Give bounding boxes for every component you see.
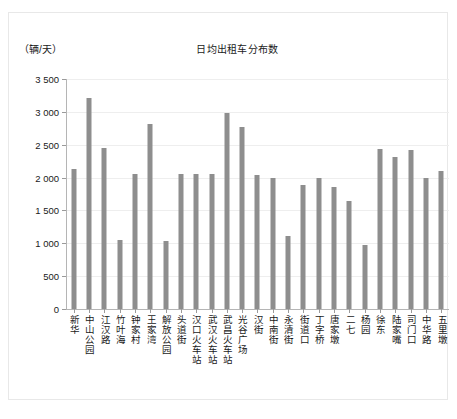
bar[interactable] — [240, 127, 245, 309]
x-axis-label-slot: 二七 — [342, 315, 357, 339]
bar[interactable] — [439, 171, 444, 309]
x-axis-label: 中山公园 — [84, 315, 95, 355]
x-tick-mark — [196, 309, 197, 313]
y-axis-unit-label: （辆/天） — [19, 41, 62, 56]
x-tick-mark — [380, 309, 381, 313]
x-axis-label: 街道口 — [298, 315, 309, 345]
x-axis-label: 五里墩 — [436, 315, 447, 345]
bar-slot — [204, 79, 219, 309]
y-tick-label: 3 000 — [35, 106, 59, 117]
x-axis-label: 武汉火车站 — [206, 315, 217, 365]
y-tick-label: 1 500 — [35, 205, 59, 216]
bar-slot — [357, 79, 372, 309]
x-axis-label-slot: 钟家村 — [127, 315, 142, 349]
bar[interactable] — [163, 241, 168, 309]
bar[interactable] — [393, 157, 398, 309]
x-axis-label-slot: 头道街 — [173, 315, 188, 349]
x-tick-mark — [135, 309, 136, 313]
bar-slot — [311, 79, 326, 309]
x-axis-label-slot: 陆家嘴 — [388, 315, 403, 349]
x-axis-label: 徐东 — [375, 315, 386, 335]
x-tick-mark — [166, 309, 167, 313]
bar[interactable] — [286, 236, 291, 309]
x-axis-label: 丁字桥 — [314, 315, 325, 345]
bar[interactable] — [117, 240, 122, 309]
x-axis-label-slot: 徐东 — [372, 315, 387, 339]
y-tick-label: 2 000 — [35, 172, 59, 183]
bar[interactable] — [148, 124, 153, 309]
y-tick-label: 1 000 — [35, 238, 59, 249]
bar[interactable] — [194, 174, 199, 309]
x-tick-mark — [74, 309, 75, 313]
bar[interactable] — [378, 149, 383, 309]
x-tick-mark — [89, 309, 90, 313]
x-axis-label-slot: 汉街 — [250, 315, 265, 339]
bar[interactable] — [71, 169, 76, 309]
x-tick-mark — [319, 309, 320, 313]
bar-slot — [66, 79, 81, 309]
x-tick-mark — [395, 309, 396, 313]
bar[interactable] — [424, 178, 429, 309]
x-axis-label-slot: 解放公园 — [158, 315, 173, 359]
bar-slot — [189, 79, 204, 309]
bar-slot — [342, 79, 357, 309]
x-axis-label: 钟家村 — [130, 315, 141, 345]
x-axis-label: 唐家墩 — [329, 315, 340, 345]
bar-slot — [296, 79, 311, 309]
bar-slot — [403, 79, 418, 309]
x-axis-label: 中华路 — [421, 315, 432, 345]
bar-slot — [418, 79, 433, 309]
x-tick-mark — [303, 309, 304, 313]
bar[interactable] — [86, 98, 91, 309]
x-axis-label-slot: 中山公园 — [81, 315, 96, 359]
x-axis-label-slot: 武汉火车站 — [204, 315, 219, 369]
x-tick-mark — [349, 309, 350, 313]
bar-slot — [326, 79, 341, 309]
x-tick-mark — [365, 309, 366, 313]
bar-slot — [97, 79, 112, 309]
x-axis-label-slot: 丁字桥 — [311, 315, 326, 349]
bar-slot — [143, 79, 158, 309]
bar[interactable] — [209, 174, 214, 309]
bar[interactable] — [332, 187, 337, 309]
bar-slot — [81, 79, 96, 309]
y-tick-label: 3 500 — [35, 74, 59, 85]
x-axis-label-slot: 街道口 — [296, 315, 311, 349]
x-axis-label-slot: 五里墩 — [434, 315, 449, 349]
x-axis-label-slot: 永清街 — [280, 315, 295, 349]
x-tick-mark — [212, 309, 213, 313]
y-tick-label: 500 — [43, 271, 59, 282]
x-axis-label-slot: 中南街 — [265, 315, 280, 349]
bar[interactable] — [224, 113, 229, 309]
chart-title: 日均出租车分布数 — [9, 41, 457, 56]
x-axis-label: 二七 — [344, 315, 355, 335]
x-axis-label-slot: 汉口火车站 — [189, 315, 204, 369]
x-axis-label: 中南街 — [268, 315, 279, 345]
bar[interactable] — [255, 175, 260, 309]
x-tick-mark — [273, 309, 274, 313]
x-tick-mark — [242, 309, 243, 313]
bar[interactable] — [347, 201, 352, 309]
bar[interactable] — [132, 174, 137, 309]
bar[interactable] — [178, 174, 183, 309]
bar-series — [66, 79, 449, 309]
x-axis-label-slot: 江汉路 — [97, 315, 112, 349]
bar[interactable] — [408, 150, 413, 309]
chart-figure-frame: 日均出租车分布数 （辆/天） 05001 0001 5002 0002 5003… — [8, 12, 448, 400]
x-axis-label-slot: 竹叶海 — [112, 315, 127, 349]
x-axis-label: 杨园 — [359, 315, 370, 335]
bar[interactable] — [270, 178, 275, 309]
bar[interactable] — [316, 178, 321, 309]
bar[interactable] — [362, 245, 367, 309]
x-tick-mark — [441, 309, 442, 313]
x-axis-label: 武昌火车站 — [222, 315, 233, 365]
x-axis-label: 头道街 — [176, 315, 187, 345]
x-axis-label: 竹叶海 — [114, 315, 125, 345]
x-tick-mark — [411, 309, 412, 313]
x-axis-label: 司门口 — [405, 315, 416, 345]
x-axis-label-slot: 新华 — [66, 315, 81, 339]
bar[interactable] — [102, 148, 107, 309]
x-axis-label: 解放公园 — [160, 315, 171, 355]
x-tick-mark — [288, 309, 289, 313]
bar[interactable] — [301, 185, 306, 309]
